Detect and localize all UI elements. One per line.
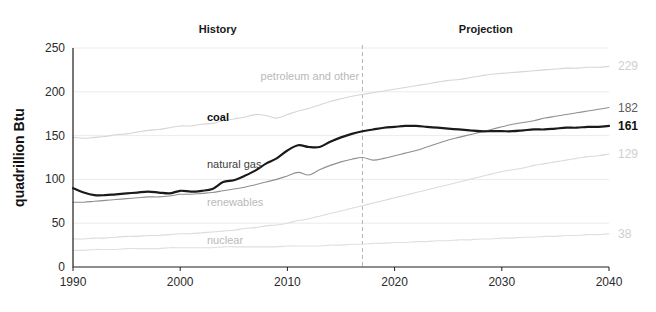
y-tick-label-250: 250: [45, 41, 65, 55]
series-inline-labels: petroleum and othercoalnatural gasrenewa…: [207, 70, 359, 247]
y-axis-tick-labels: 050100150200250: [45, 41, 65, 274]
series-line-nuclear: [73, 234, 609, 251]
history-period-label: History: [199, 23, 238, 35]
x-tick-label-2040: 2040: [596, 275, 623, 289]
series-label-natural-gas: natural gas: [207, 158, 262, 170]
projection-period-label: Projection: [459, 23, 513, 35]
end-value-natural-gas: 182: [618, 101, 638, 115]
series-label-coal: coal: [207, 111, 229, 123]
y-tick-label-150: 150: [45, 129, 65, 143]
y-tick-label-100: 100: [45, 172, 65, 186]
y-tick-label-200: 200: [45, 85, 65, 99]
series-line-coal: [73, 126, 609, 196]
series-label-renewables: renewables: [207, 196, 264, 208]
x-axis-tick-labels: 199020002010202020302040: [60, 275, 623, 289]
chart-page: 050100150200250 199020002010202020302040…: [0, 0, 656, 312]
end-value-renewables: 129: [618, 147, 638, 161]
series-line-natural-gas: [73, 108, 609, 203]
x-tick-label-2030: 2030: [488, 275, 515, 289]
end-value-coal: 161: [618, 119, 638, 133]
y-tick-label-0: 0: [58, 260, 65, 274]
y-axis-title: quadrillion Btu: [11, 108, 27, 207]
series-lines-group: [73, 66, 609, 250]
series-label-petroleum-and-other: petroleum and other: [261, 70, 360, 82]
series-end-values: 22916118212938: [618, 59, 638, 240]
end-value-nuclear: 38: [618, 227, 632, 241]
energy-consumption-line-chart: 050100150200250 199020002010202020302040…: [0, 0, 656, 312]
x-tick-label-1990: 1990: [60, 275, 87, 289]
y-tick-label-50: 50: [52, 216, 66, 230]
series-label-nuclear: nuclear: [207, 234, 243, 246]
x-tick-label-2000: 2000: [167, 275, 194, 289]
x-tick-label-2010: 2010: [274, 275, 301, 289]
end-value-petroleum-and-other: 229: [618, 59, 638, 73]
x-tick-label-2020: 2020: [381, 275, 408, 289]
